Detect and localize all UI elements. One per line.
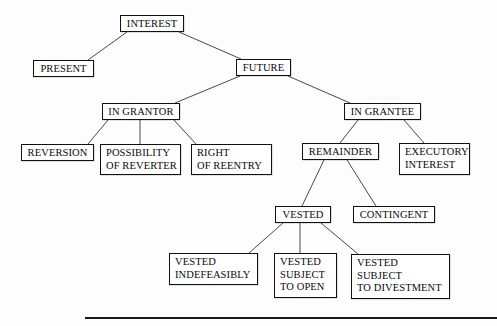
- node-label-vested-indefeasibly: VESTED INDEFEASIBLY: [175, 256, 250, 280]
- node-label-in-grantor: IN GRANTOR: [108, 106, 173, 117]
- node-label-vested: VESTED: [283, 209, 324, 220]
- node-label-right-reentry: RIGHT OF REENTRY: [197, 147, 262, 171]
- node-remainder[interactable]: REMAINDER: [302, 143, 379, 160]
- node-interest[interactable]: INTEREST: [120, 15, 184, 32]
- node-vested-indefeasibly[interactable]: VESTED INDEFEASIBLY: [169, 253, 258, 285]
- node-executory-interest[interactable]: EXECUTORY INTEREST: [399, 143, 470, 175]
- node-label-vested-divestment: VESTED SUBJECT TO DIVESTMENT: [357, 257, 442, 293]
- node-label-interest: INTEREST: [127, 18, 177, 29]
- node-right-reentry[interactable]: RIGHT OF REENTRY: [191, 144, 272, 175]
- node-label-present: PRESENT: [40, 63, 86, 74]
- node-label-possibility: POSSIBILITY OF REVERTER: [106, 147, 177, 171]
- node-label-future: FUTURE: [243, 62, 284, 73]
- footer-divider: [85, 317, 497, 319]
- node-possibility[interactable]: POSSIBILITY OF REVERTER: [100, 144, 181, 175]
- edge-vested-to-vested-divestment: [321, 223, 358, 254]
- edge-future-to-in-grantee: [288, 76, 350, 103]
- edge-in-grantor-to-reversion: [88, 120, 108, 144]
- node-future[interactable]: FUTURE: [236, 59, 291, 76]
- edge-future-to-in-grantor: [175, 76, 240, 103]
- node-label-vested-open: VESTED SUBJECT TO OPEN: [280, 256, 325, 292]
- edge-in-grantor-to-right-reentry: [174, 120, 196, 144]
- node-reversion[interactable]: REVERSION: [21, 144, 94, 161]
- node-vested-open[interactable]: VESTED SUBJECT TO OPEN: [274, 253, 337, 298]
- edge-interest-to-present: [88, 32, 127, 60]
- node-in-grantee[interactable]: IN GRANTEE: [344, 103, 421, 120]
- edge-vested-to-vested-indefeasibly: [249, 223, 283, 253]
- node-present[interactable]: PRESENT: [33, 60, 94, 77]
- node-label-contingent: CONTINGENT: [360, 209, 429, 220]
- edge-remainder-to-vested: [302, 160, 324, 206]
- edge-in-grantee-to-remainder: [340, 120, 358, 143]
- node-label-executory-interest: EXECUTORY INTEREST: [405, 146, 469, 170]
- node-vested-divestment[interactable]: VESTED SUBJECT TO DIVESTMENT: [351, 254, 450, 299]
- node-label-in-grantee: IN GRANTEE: [351, 106, 415, 117]
- node-label-remainder: REMAINDER: [309, 146, 372, 157]
- edge-in-grantee-to-executory-interest: [404, 120, 424, 143]
- edge-interest-to-future: [179, 32, 241, 59]
- node-in-grantor[interactable]: IN GRANTOR: [102, 103, 180, 120]
- node-label-reversion: REVERSION: [28, 147, 88, 158]
- edge-remainder-to-contingent: [347, 160, 376, 206]
- node-vested[interactable]: VESTED: [275, 206, 331, 223]
- diagram-canvas: INTERESTPRESENTFUTUREIN GRANTORIN GRANTE…: [0, 0, 497, 326]
- node-contingent[interactable]: CONTINGENT: [353, 206, 435, 223]
